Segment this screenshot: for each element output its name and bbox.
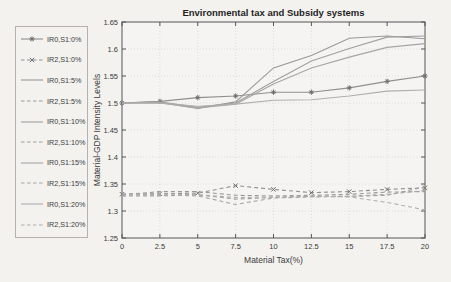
svg-text:7.5: 7.5 <box>230 242 240 251</box>
chart-figure: IR0,S1:0% IR2,S1:0% IR0,S1:5% IR2,S1:5% … <box>0 0 451 282</box>
svg-text:15: 15 <box>345 242 353 251</box>
chart-plot-area: 02.557.51012.51517.5201.251.31.351.41.45… <box>0 0 451 282</box>
svg-text:1.55: 1.55 <box>103 72 118 81</box>
svg-text:20: 20 <box>421 242 429 251</box>
svg-text:1.25: 1.25 <box>103 234 118 243</box>
svg-text:5: 5 <box>196 242 200 251</box>
y-axis-label: Material-GDP Intensity Levels <box>92 74 102 186</box>
chart-title: Environmental tax and Subsidy systems <box>122 7 425 18</box>
svg-text:1.35: 1.35 <box>103 180 118 189</box>
svg-text:1.5: 1.5 <box>108 99 118 108</box>
svg-text:1.65: 1.65 <box>103 18 118 27</box>
svg-text:17.5: 17.5 <box>380 242 395 251</box>
svg-text:1.3: 1.3 <box>108 207 118 216</box>
svg-text:0: 0 <box>120 242 124 251</box>
x-axis-label: Material Tax(%) <box>122 255 425 265</box>
svg-text:1.4: 1.4 <box>108 153 118 162</box>
svg-text:2.5: 2.5 <box>155 242 165 251</box>
svg-text:1.6: 1.6 <box>108 45 118 54</box>
svg-text:1.45: 1.45 <box>103 126 118 135</box>
svg-text:12.5: 12.5 <box>304 242 319 251</box>
svg-text:10: 10 <box>269 242 277 251</box>
